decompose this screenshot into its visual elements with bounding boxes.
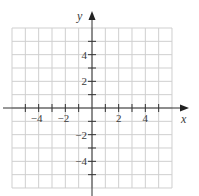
y-tick-label: 4 <box>82 49 88 61</box>
y-tick-label: 2 <box>82 75 88 87</box>
x-axis-arrow-icon <box>180 105 189 112</box>
y-axis-arrow-icon <box>89 11 96 20</box>
coordinate-plane: −4−22442−2−4 x y <box>0 0 199 196</box>
x-tick-label: 2 <box>116 112 122 124</box>
y-tick-label: −4 <box>75 155 87 167</box>
x-tick-label: −2 <box>57 112 69 124</box>
x-tick-label: 4 <box>143 112 149 124</box>
axes <box>3 11 189 196</box>
y-tick-label: −2 <box>75 129 87 141</box>
y-axis-label: y <box>76 9 83 23</box>
x-axis-label: x <box>180 112 187 126</box>
x-tick-label: −4 <box>31 112 43 124</box>
